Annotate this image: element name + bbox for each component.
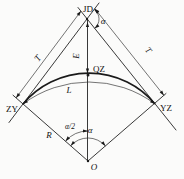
left-radius-line bbox=[13, 95, 88, 161]
intersection-label: JD bbox=[83, 4, 94, 14]
intersection-point-dot bbox=[86, 18, 88, 20]
tangent-left-label: T bbox=[32, 52, 44, 63]
curve-diagram-canvas: JD QZ ZY YZ O T T E L R α α/2 α bbox=[0, 0, 184, 179]
curve-mid-point-dot bbox=[87, 74, 90, 77]
deflection-angle-label: α bbox=[101, 16, 106, 26]
external-top-arrow-icon bbox=[86, 22, 89, 27]
tangent-right-label: T bbox=[143, 45, 155, 56]
half-central-angle-label: α/2 bbox=[65, 122, 75, 131]
circle-center-label: O bbox=[91, 162, 98, 172]
curve-mid-label: QZ bbox=[93, 64, 105, 74]
central-angle-right-arrow-icon bbox=[101, 141, 105, 146]
curve-start-label: ZY bbox=[6, 104, 18, 114]
central-angle-left-arrow-icon bbox=[71, 141, 76, 146]
tangent-left-lower-arrow-icon bbox=[16, 93, 20, 98]
radius-label: R bbox=[45, 130, 52, 140]
left-tangent-line bbox=[9, 3, 99, 123]
curve-end-label: YZ bbox=[160, 103, 172, 113]
central-angle-arc bbox=[71, 138, 106, 146]
curve-length-label: L bbox=[65, 85, 71, 95]
circle-center-dot bbox=[87, 160, 89, 162]
half-angle-left-arrow-icon bbox=[66, 136, 71, 141]
curve-length-dim-arc bbox=[23, 82, 155, 104]
labels: JD QZ ZY YZ O T T E L R α α/2 α bbox=[6, 4, 172, 172]
half-central-angle-arc bbox=[66, 131, 89, 141]
deflection-arc-lower-arrow-icon bbox=[95, 24, 100, 28]
central-angle-label: α bbox=[88, 125, 93, 135]
curve-diagram: JD QZ ZY YZ O T T E L R α α/2 α bbox=[0, 0, 184, 179]
tangent-left-upper-arrow-icon bbox=[77, 11, 81, 16]
external-distance-label: E bbox=[71, 53, 81, 60]
